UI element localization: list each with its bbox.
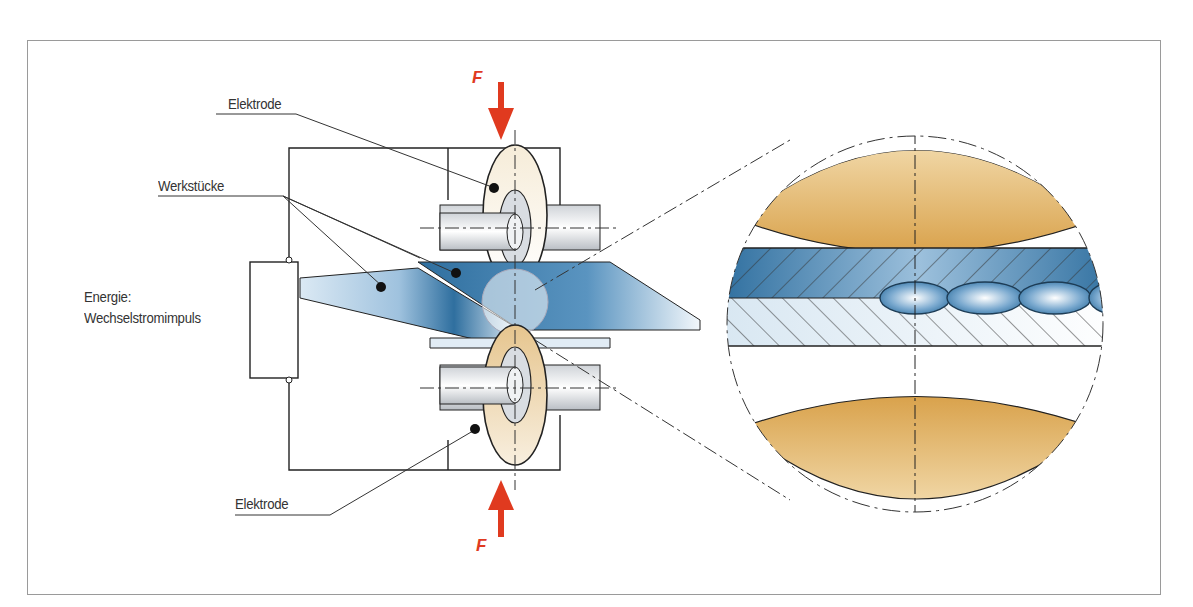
label-electrode-top: Elektrode xyxy=(228,95,281,112)
label-workpieces: Werkstücke xyxy=(158,177,224,194)
label-force-bottom: F xyxy=(476,536,486,556)
force-arrow-top xyxy=(488,82,514,140)
label-ac-pulse: Wechselstromimpuls xyxy=(84,309,201,326)
force-arrow-bottom xyxy=(488,480,514,537)
weld-nuggets xyxy=(880,282,1141,314)
energy-source-box xyxy=(250,262,298,378)
detail-view xyxy=(720,130,1141,530)
label-energy: Energie: xyxy=(84,288,131,305)
label-electrode-bottom: Elektrode xyxy=(235,495,288,512)
welding-diagram xyxy=(0,0,1193,607)
label-force-top: F xyxy=(472,68,482,88)
